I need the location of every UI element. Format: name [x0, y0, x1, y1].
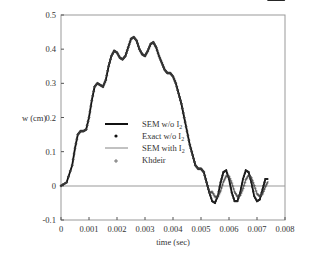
x-axis-label: time (sec) — [156, 237, 190, 247]
x-tick-label: 0 — [59, 224, 63, 234]
plot-frame — [61, 15, 285, 220]
series-group — [60, 0, 286, 204]
y-axis-label: w (cm) — [22, 113, 46, 123]
legend-label-sem-without-i2: SEM w/o I2 — [142, 119, 182, 130]
x-tick-label: 0.007 — [247, 224, 266, 234]
x-tick-label: 0.004 — [163, 224, 183, 234]
y-tick-label: -0.1 — [43, 215, 56, 225]
legend-label-khdeir: Khdeir — [142, 155, 166, 165]
y-tick-label: 0.5 — [45, 10, 56, 20]
y-tick-label: 0 — [52, 181, 56, 191]
y-tick-label: 0.3 — [45, 78, 56, 88]
x-tick-label: 0.002 — [107, 224, 126, 234]
y-tick-label: 0.2 — [45, 113, 56, 123]
series-sem-with-i2 — [61, 37, 268, 197]
series-markers — [60, 0, 286, 204]
legend-label-sem-with-i2: SEM with I2 — [142, 143, 185, 154]
x-tick-label: 0.005 — [191, 224, 210, 234]
legend: SEM w/o I2 Exact w/o I2 SEM with I2 Khde… — [105, 119, 185, 165]
y-tick-label: 0.4 — [45, 44, 56, 54]
y-tick-label: 0.1 — [45, 147, 56, 157]
chart-figure: -0.100.10.20.30.40.5 00.0010.0020.0030.0… — [0, 0, 310, 261]
x-tick-label: 0.001 — [79, 224, 98, 234]
x-tick-label: 0.006 — [219, 224, 238, 234]
legend-dot-marker-icon — [114, 134, 117, 137]
x-tick-label: 0.008 — [275, 224, 294, 234]
legend-label-exact-without-i2: Exact w/o I2 — [142, 131, 184, 142]
x-tick-label: 0.003 — [135, 224, 154, 234]
legend-plus-marker-icon — [114, 159, 118, 163]
